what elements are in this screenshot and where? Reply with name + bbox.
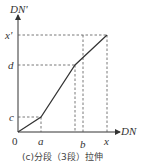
x-tick-b: b	[80, 138, 86, 150]
piecewise-stretch-diagram: DN' DN 0 c d x' a b x (c)分段（3段）拉伸	[0, 0, 141, 163]
stretch-curve	[18, 35, 107, 132]
y-tick-d: d	[8, 59, 14, 71]
x-axis-label: DN	[120, 125, 137, 137]
origin-label: 0	[12, 135, 18, 147]
y-tick-c: c	[9, 111, 14, 123]
x-tick-a: a	[38, 135, 44, 147]
x-tick-x: x	[103, 135, 109, 147]
y-tick-x-prime: x'	[4, 29, 13, 41]
figure-caption: (c)分段（3段）拉伸	[22, 151, 103, 162]
y-axis-label: DN'	[9, 3, 28, 15]
